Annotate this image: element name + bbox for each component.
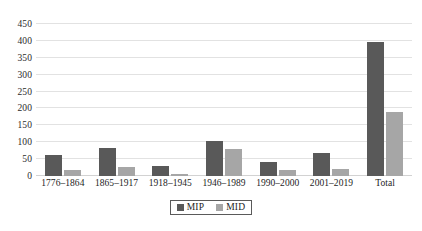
x-tick-label: 1946–1989 <box>197 178 251 188</box>
legend-box: MIPMID <box>170 200 253 215</box>
chart-legend: MIPMID <box>0 200 422 215</box>
x-axis-labels: 1776–18641865–19171918–19451946–19891990… <box>36 178 412 188</box>
bar-mip <box>45 155 62 176</box>
bar-groups <box>36 24 412 176</box>
y-tick-label: 50 <box>22 154 32 164</box>
x-tick-label: 1990–2000 <box>251 178 305 188</box>
bar-group <box>90 24 144 176</box>
y-tick-label: 350 <box>17 53 32 63</box>
legend-item-mip[interactable]: MIP <box>177 202 205 212</box>
y-axis-labels: 050100150200250300350400450 <box>0 24 32 176</box>
bar-mip <box>152 166 169 176</box>
bar-group <box>143 24 197 176</box>
bar-mid <box>64 170 81 176</box>
y-tick-label: 0 <box>27 171 32 181</box>
bar-mid <box>386 112 403 176</box>
x-tick-label: 1865–1917 <box>90 178 144 188</box>
bar-group <box>305 24 359 176</box>
legend-label: MID <box>226 202 245 212</box>
legend-item-mid[interactable]: MID <box>216 202 245 212</box>
bar-mid <box>332 169 349 176</box>
x-tick-label: 1918–1945 <box>143 178 197 188</box>
bar-mid <box>225 149 242 176</box>
bar-mip <box>367 42 384 176</box>
legend-label: MIP <box>187 202 205 212</box>
y-tick-label: 200 <box>17 103 32 113</box>
bar-group <box>36 24 90 176</box>
bar-mip <box>99 148 116 176</box>
y-tick-label: 450 <box>17 19 32 29</box>
bar-group <box>358 24 412 176</box>
bar-group <box>197 24 251 176</box>
bar-group <box>251 24 305 176</box>
bar-mid <box>279 170 296 176</box>
legend-swatch-icon <box>177 204 184 211</box>
x-tick-label: 2001–2019 <box>305 178 359 188</box>
bar-mip <box>206 141 223 176</box>
bar-chart: 050100150200250300350400450 1776–1864186… <box>0 0 422 231</box>
x-tick-label: 1776–1864 <box>36 178 90 188</box>
bar-mid <box>171 174 188 176</box>
bar-mip <box>313 153 330 176</box>
y-tick-label: 100 <box>17 137 32 147</box>
y-tick-label: 400 <box>17 36 32 46</box>
y-tick-label: 300 <box>17 70 32 80</box>
x-tick-label: Total <box>358 178 412 188</box>
y-tick-label: 250 <box>17 87 32 97</box>
bar-mid <box>118 167 135 176</box>
bar-mip <box>260 162 277 176</box>
y-tick-label: 150 <box>17 120 32 130</box>
legend-swatch-icon <box>216 204 223 211</box>
